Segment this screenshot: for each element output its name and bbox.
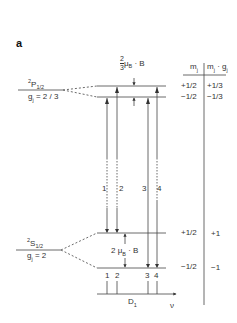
lower-splitting-label: 2 μB · B xyxy=(111,247,138,257)
transition-label-3: 3 xyxy=(142,185,146,193)
table-mj-3: −1/2 xyxy=(181,263,197,271)
table-mjgj-2: +1 xyxy=(211,230,220,238)
transition-label-2: 2 xyxy=(119,185,123,193)
lower-state-term: 2S1/2 xyxy=(27,238,43,250)
table-mjgj-3: −1 xyxy=(211,264,220,272)
table-mjgj-1: −1/3 xyxy=(207,93,223,101)
upper-splitting-label: 2 3 μB · B xyxy=(120,55,145,72)
spectrum-label: D1 xyxy=(128,298,137,308)
spectrum-line-2: 2 xyxy=(115,272,119,280)
table-header-mj: mj xyxy=(190,63,198,73)
spectrum-line-3: 3 xyxy=(145,272,149,280)
frequency-axis-label: ν xyxy=(170,302,174,310)
panel-label: a xyxy=(16,38,22,49)
table-header-mjgj: mj · gj xyxy=(207,63,228,73)
transition-label-4: 4 xyxy=(157,185,161,193)
table-mjgj-0: +1/3 xyxy=(207,82,223,90)
spectrum-line-4: 4 xyxy=(154,272,158,280)
table-mj-0: +1/2 xyxy=(181,82,197,90)
table-mj-2: +1/2 xyxy=(181,229,197,237)
transition-label-1: 1 xyxy=(102,185,106,193)
table-mj-1: −1/2 xyxy=(181,93,197,101)
spectrum-line-1: 1 xyxy=(105,272,109,280)
upper-state-term: 2P1/2 xyxy=(28,79,44,91)
lower-state-g: gj = 2 xyxy=(27,252,46,262)
upper-state-g: gj = 2 / 3 xyxy=(28,93,58,103)
